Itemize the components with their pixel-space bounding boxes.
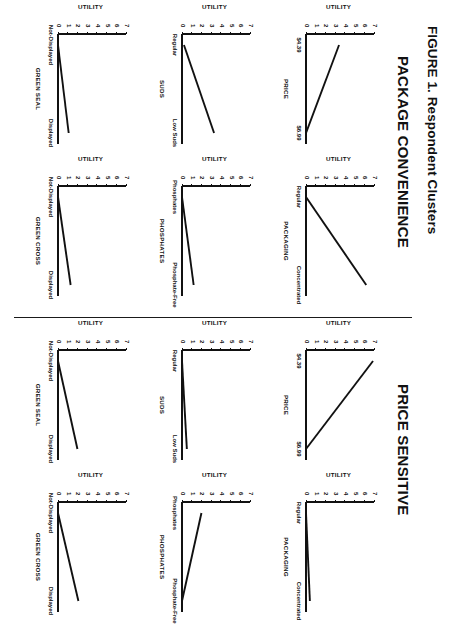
- x-category-label: $6.99: [296, 441, 302, 456]
- x-category-label: Concentrated: [296, 582, 302, 621]
- utility-series-line: [58, 45, 69, 133]
- utility-plot-green-seal: 76543210UTILITYNot-DisplayedDisplayedGRE…: [16, 12, 134, 156]
- x-category-label: Not-Displayed: [48, 25, 54, 65]
- x-axis-title: PHOSPHATES: [159, 535, 166, 580]
- x-axis-title: GREEN CROSS: [35, 533, 42, 581]
- y-tick-label: 6: [362, 24, 368, 27]
- plot-canvas: [16, 328, 134, 472]
- y-tick-label: 2: [199, 24, 205, 27]
- plot-canvas: [140, 328, 258, 472]
- utility-plot-green-seal: 76543210UTILITYNot-DisplayedDisplayedGRE…: [16, 328, 134, 472]
- utility-series-line: [184, 45, 214, 133]
- plot-canvas: [16, 12, 134, 156]
- y-tick-label: 3: [85, 340, 91, 343]
- x-axis-title: PRICE: [283, 79, 290, 99]
- x-category-label: Not-Displayed: [48, 341, 54, 381]
- x-category-label: Not-Displayed: [48, 177, 54, 217]
- y-tick-label: 1: [190, 24, 196, 27]
- utility-plot-packaging: 76543210UTILITYRegularConcentratedPACKAG…: [264, 480, 382, 624]
- y-tick-label: 3: [209, 176, 215, 179]
- utility-series-line: [182, 513, 201, 601]
- x-category-label: Displayed: [48, 435, 54, 463]
- y-tick-label: 2: [323, 492, 329, 495]
- y-tick-label: 0: [304, 492, 310, 495]
- plot-canvas: [16, 164, 134, 308]
- x-category-label: Phosphate-Free: [172, 578, 178, 623]
- y-tick-label: 6: [238, 492, 244, 495]
- y-tick-label: 5: [105, 176, 111, 179]
- y-axis-title: UTILITY: [78, 471, 103, 478]
- utility-series-line: [306, 197, 366, 285]
- y-tick-label: 4: [343, 340, 349, 343]
- y-tick-label: 5: [105, 24, 111, 27]
- y-tick-label: 2: [323, 176, 329, 179]
- utility-plot-phosphates: 76543210UTILITYPhosphatesPhosphate-FreeP…: [140, 480, 258, 624]
- utility-plot-price: 76543210UTILITY$4.39$6.99PRICE: [264, 328, 382, 472]
- figure-page: FIGURE 1. Respondent Clusters PACKAGE CO…: [0, 0, 454, 636]
- plot-axes: [306, 186, 374, 296]
- small-multiples-grid: 76543210UTILITY$4.39$6.99PRICE76543210UT…: [16, 12, 382, 308]
- y-tick-label: 3: [209, 24, 215, 27]
- y-tick-label: 4: [343, 492, 349, 495]
- x-category-label: Phosphates: [172, 180, 178, 214]
- x-category-label: $6.99: [296, 125, 302, 140]
- y-tick-label: 0: [56, 340, 62, 343]
- plot-canvas: [264, 12, 382, 156]
- y-tick-label: 4: [95, 492, 101, 495]
- y-tick-label: 7: [372, 340, 378, 343]
- x-category-label: Low Suds: [172, 435, 178, 463]
- y-tick-label: 7: [124, 24, 130, 27]
- plot-axes: [182, 34, 250, 144]
- y-tick-label: 1: [66, 340, 72, 343]
- utility-series-line: [58, 361, 77, 449]
- x-axis-title: GREEN CROSS: [35, 217, 42, 265]
- x-axis-title: SUDS: [159, 80, 166, 98]
- y-tick-label: 2: [323, 24, 329, 27]
- plot-canvas: [140, 12, 258, 156]
- utility-series-line: [58, 513, 78, 601]
- plot-axes: [306, 34, 374, 144]
- x-axis-title: GREEN SEAL: [35, 384, 42, 427]
- y-tick-label: 6: [114, 176, 120, 179]
- y-axis-title: UTILITY: [202, 319, 227, 326]
- y-tick-label: 3: [333, 492, 339, 495]
- y-tick-label: 5: [353, 24, 359, 27]
- cluster-panel-title: PRICE SENSITIVE: [395, 384, 412, 515]
- y-tick-label: 6: [362, 492, 368, 495]
- y-tick-label: 4: [343, 24, 349, 27]
- y-tick-label: 4: [219, 340, 225, 343]
- y-tick-label: 2: [323, 340, 329, 343]
- y-tick-label: 1: [190, 340, 196, 343]
- x-axis-title: PRICE: [283, 395, 290, 415]
- y-tick-label: 4: [95, 340, 101, 343]
- y-tick-label: 3: [209, 340, 215, 343]
- utility-plot-green-cross: 76543210UTILITYNot-DisplayedDisplayedGRE…: [16, 164, 134, 308]
- y-tick-label: 6: [114, 340, 120, 343]
- y-tick-label: 6: [114, 24, 120, 27]
- y-tick-label: 7: [248, 340, 254, 343]
- x-category-label: $4.39: [296, 353, 302, 368]
- y-tick-label: 5: [105, 340, 111, 343]
- y-tick-label: 3: [85, 176, 91, 179]
- y-tick-label: 7: [372, 176, 378, 179]
- y-tick-label: 7: [124, 340, 130, 343]
- y-tick-label: 5: [229, 340, 235, 343]
- plot-canvas: [264, 328, 382, 472]
- y-tick-label: 6: [238, 24, 244, 27]
- utility-plot-price: 76543210UTILITY$4.39$6.99PRICE: [264, 12, 382, 156]
- y-tick-label: 5: [105, 492, 111, 495]
- y-tick-label: 2: [75, 176, 81, 179]
- y-tick-label: 4: [343, 176, 349, 179]
- y-tick-label: 0: [56, 492, 62, 495]
- y-tick-label: 7: [372, 492, 378, 495]
- cluster-panel-title: PACKAGE CONVENIENCE: [395, 56, 412, 248]
- utility-series-line: [182, 197, 194, 285]
- y-tick-label: 6: [114, 492, 120, 495]
- y-tick-label: 7: [372, 24, 378, 27]
- y-tick-label: 0: [180, 492, 186, 495]
- y-tick-label: 2: [199, 340, 205, 343]
- plot-canvas: [264, 164, 382, 308]
- plot-canvas: [140, 480, 258, 624]
- y-tick-label: 5: [353, 176, 359, 179]
- x-axis-title: GREEN SEAL: [35, 68, 42, 111]
